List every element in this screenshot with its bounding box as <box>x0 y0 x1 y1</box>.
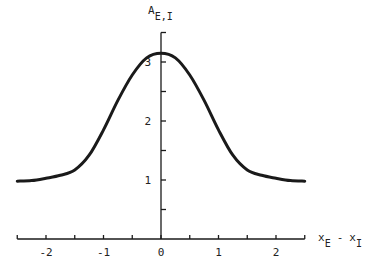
x-tick-label: 1 <box>215 246 222 259</box>
x-tick-label: -1 <box>97 246 110 259</box>
y-axis-label: AE,I <box>148 4 173 22</box>
y-tick-label: 1 <box>144 174 151 187</box>
x-tick-label: -2 <box>39 246 52 259</box>
y-tick-label: 2 <box>144 115 151 128</box>
x-tick-label: 2 <box>273 246 280 259</box>
x-tick-label: 0 <box>158 246 165 259</box>
chart-canvas: -2-1012 123 AE,I xE-xI <box>0 0 374 265</box>
x-axis-label: xE-xI <box>318 231 362 249</box>
y-axis: 123 <box>144 33 166 240</box>
